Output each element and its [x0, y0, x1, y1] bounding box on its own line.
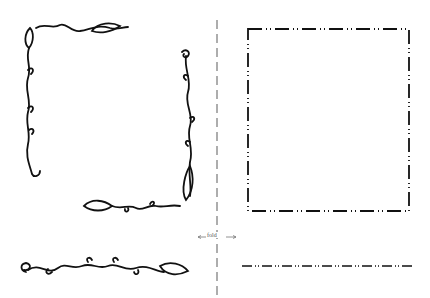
fold-label: fold: [206, 232, 218, 238]
vine-corner-top-left: [25, 23, 128, 176]
dotted-dash-frame: [248, 29, 409, 211]
vine-corner-bottom-right: [84, 50, 194, 211]
vine-strip-bottom: [22, 258, 189, 274]
artwork-canvas: [0, 0, 430, 298]
fold-line: [198, 20, 236, 298]
